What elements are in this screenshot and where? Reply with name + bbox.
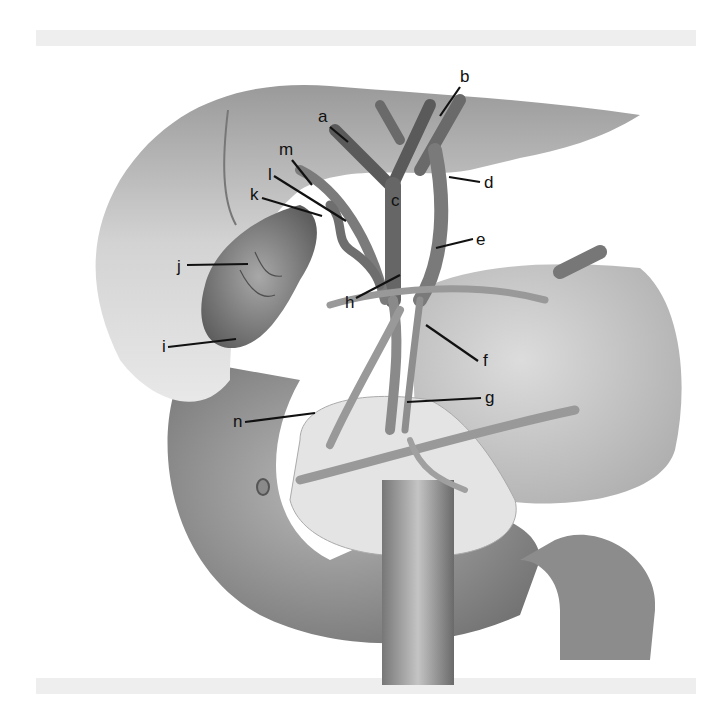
- label-l: l: [268, 165, 272, 184]
- label-f: f: [483, 351, 488, 370]
- duct-stump: [257, 479, 269, 495]
- label-j: j: [176, 257, 181, 276]
- duodenum-lower-limb: [520, 535, 655, 660]
- label-e: e: [476, 230, 485, 249]
- anatomy-illustration: a b c d e f g h i j k l m n: [0, 0, 717, 706]
- label-m: m: [279, 140, 293, 159]
- aorta: [382, 480, 454, 685]
- label-n: n: [233, 412, 242, 431]
- label-g: g: [485, 388, 494, 407]
- label-h: h: [345, 293, 354, 312]
- leader-d: [449, 177, 480, 182]
- label-d: d: [484, 173, 493, 192]
- label-i: i: [162, 337, 166, 356]
- leader-j: [187, 264, 248, 265]
- label-b: b: [460, 67, 469, 86]
- label-k: k: [250, 185, 259, 204]
- label-a: a: [318, 107, 328, 126]
- label-c: c: [391, 191, 400, 210]
